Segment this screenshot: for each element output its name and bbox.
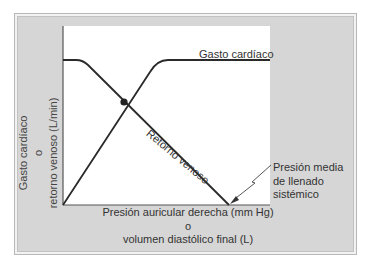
y-axis-label-line3: retorno venoso (L/min) — [46, 88, 61, 218]
equilibrium-point — [120, 98, 127, 105]
msfp-arrow-line — [236, 165, 271, 198]
x-axis-label: Presión auricular derecha (mm Hg) o volu… — [63, 206, 313, 247]
x-axis-label-line3: volumen diastólico final (L) — [63, 233, 313, 247]
msfp-annotation: Presión media de llenado sistémico — [273, 161, 343, 202]
y-axis-label: Gasto cardíaco o retorno venoso (L/min) — [16, 88, 64, 218]
x-axis-label-line1: Presión auricular derecha (mm Hg) — [63, 206, 313, 220]
msfp-line2: de llenado — [273, 175, 343, 189]
y-axis-label-line1: Gasto cardíaco — [16, 88, 31, 218]
msfp-line1: Presión media — [273, 161, 343, 175]
x-axis-label-line2: o — [63, 220, 313, 234]
cardiac-output-label: Gasto cardíaco — [199, 48, 274, 60]
msfp-line3: sistémico — [273, 188, 343, 202]
y-axis-label-line2: o — [31, 88, 46, 218]
cardiac-output-curve — [63, 60, 270, 205]
